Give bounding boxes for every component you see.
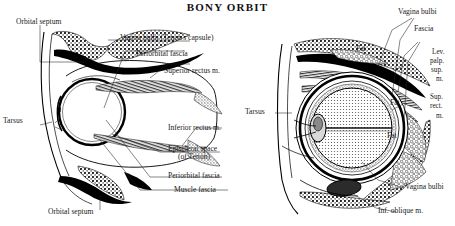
label-muscle-fascia: Muscle fascia xyxy=(174,186,216,195)
label-fat-2: Fat xyxy=(390,99,400,108)
label-fat-3: Fat xyxy=(387,132,397,141)
label-orbital-septum-bottom: Orbital septum xyxy=(48,208,93,217)
label-superior-rectus: Superior rectus m. xyxy=(164,67,220,76)
figure-artwork xyxy=(0,0,455,226)
label-inferior-rectus: Inferior rectus m. xyxy=(168,124,221,133)
label-vagina-bulbi-bottom: Vagina bulbi xyxy=(405,183,444,192)
label-fat-1: Fat xyxy=(356,45,366,54)
label-sup-rect-line2: rect. xyxy=(430,102,443,111)
label-lev-palp-line4: m. xyxy=(436,75,443,84)
label-lev-palp-line1: Lev. xyxy=(432,48,445,57)
label-vagina-bulbi: Vagina bulbi (Tenon's capsule) xyxy=(120,34,213,43)
left-panel-artwork xyxy=(40,25,228,210)
label-lev-palp-line3: sup. xyxy=(431,66,443,75)
label-sup-rect-line1: Sup. xyxy=(430,93,443,102)
label-orbital-septum-top: Orbital septum xyxy=(16,18,61,27)
bony-orbit-figure: BONY ORBIT xyxy=(0,0,455,226)
label-lev-palp-line2: palp. xyxy=(430,57,444,66)
label-tarsus-left: Tarsus xyxy=(3,117,23,126)
label-episcleral-space-of-tenon: (of Tenon) xyxy=(178,153,210,162)
label-fascia: Fascia xyxy=(414,25,433,34)
label-periorbital-fascia-bottom: Periorbital fascia xyxy=(168,172,220,181)
label-tarsus-right: Tarsus xyxy=(245,108,265,117)
label-periorbital-fascia-top: Periorbital fascia xyxy=(136,50,188,59)
label-sup-rect-line3: m. xyxy=(436,112,443,121)
label-inf-oblique: Inf. oblique m. xyxy=(378,207,423,216)
label-vagina-bulbi-top: Vagina bulbi xyxy=(398,8,437,17)
